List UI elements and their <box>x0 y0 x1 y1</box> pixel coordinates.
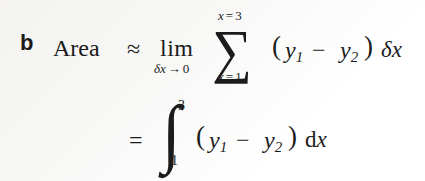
summand-term-y1: y1 <box>285 38 303 62</box>
item-label-b: b <box>20 32 33 54</box>
summand-y1-base: y <box>285 37 296 63</box>
integrand-term-y2: y2 <box>264 128 282 152</box>
summation-upper-variable: x <box>218 8 224 23</box>
integrand-y1-subscript: 1 <box>220 139 227 155</box>
summation-upper-limit: x=3 <box>218 9 242 22</box>
integrand-term-y1: y1 <box>209 128 227 152</box>
summation-lower-value: 1 <box>235 69 242 84</box>
approximately-equal-sign: ≈ <box>127 37 140 61</box>
delta-x-term: δx <box>381 38 402 61</box>
math-expression-block: b Area ≈ lim δx→0 ∑ x=3 x=1 ( y1 − y2 ) … <box>0 0 425 181</box>
limit-arrow: → <box>166 61 183 76</box>
limit-operator: lim <box>160 36 194 60</box>
differential-variable: x <box>317 127 327 152</box>
limit-subscript: δx→0 <box>154 62 189 75</box>
delta-x-variable: x <box>392 37 402 62</box>
delta-symbol: δ <box>381 37 392 62</box>
integrand-close-paren: ) <box>288 123 297 150</box>
summation-lower-limit: x=1 <box>218 70 242 83</box>
summand-close-paren: ) <box>364 33 373 60</box>
equals-sign: = <box>129 128 143 152</box>
summand-y1-subscript: 1 <box>296 49 303 65</box>
summand-open-paren: ( <box>272 33 281 60</box>
integrand-y1-base: y <box>209 127 220 153</box>
differential-d: d <box>305 127 317 152</box>
integral-lower-limit: 1 <box>171 154 178 168</box>
integrand-y2-subscript: 2 <box>275 139 282 155</box>
integral-upper-limit: 3 <box>178 99 185 113</box>
area-word: Area <box>53 36 100 60</box>
summation-lower-variable: x <box>218 69 224 84</box>
summand-y2-base: y <box>340 37 351 63</box>
differential-dx: dx <box>305 128 327 151</box>
summand-term-y2: y2 <box>340 38 358 62</box>
integrand-open-paren: ( <box>196 123 205 150</box>
limit-target: 0 <box>183 61 190 76</box>
integrand-y2-base: y <box>264 127 275 153</box>
summand-minus-operator: − <box>312 38 326 62</box>
integrand-minus-operator: − <box>236 128 250 152</box>
summand-y2-subscript: 2 <box>351 49 358 65</box>
summation-upper-value: 3 <box>235 8 242 23</box>
limit-variable: δx <box>154 61 166 76</box>
